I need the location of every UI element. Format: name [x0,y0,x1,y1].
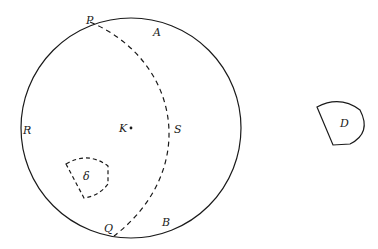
label-s: S [174,123,182,136]
diagram-canvas: P A R K S δ Q B D [0,0,378,249]
label-delta: δ [83,170,90,183]
label-p: P [85,14,94,27]
label-a: A [152,26,161,39]
label-q: Q [104,222,113,235]
label-r: R [22,124,31,137]
label-k: K [118,122,128,135]
point-k-dot [130,127,133,130]
label-d: D [339,117,349,130]
dashed-arc-pq [90,22,169,236]
label-b: B [161,216,170,229]
